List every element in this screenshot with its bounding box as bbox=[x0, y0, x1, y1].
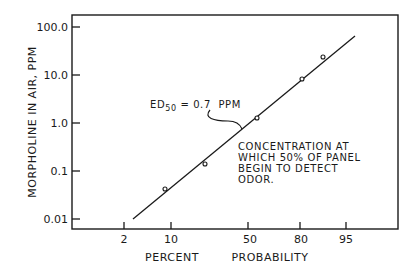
y-axis bbox=[72, 27, 80, 219]
note-line: CONCENTRATION AT bbox=[238, 141, 349, 152]
y-tick-label: 1.0 bbox=[51, 117, 69, 130]
y-tick-label: 0.01 bbox=[44, 213, 69, 226]
y-tick-label: 0.1 bbox=[51, 165, 69, 178]
note-line: ODOR. bbox=[238, 174, 274, 185]
ed50-leader-curve bbox=[208, 110, 242, 129]
ed50-annotation: ED50 = 0.7 PPM bbox=[150, 99, 242, 129]
x-axis bbox=[124, 222, 346, 229]
data-point bbox=[300, 77, 304, 81]
probability-plot: 100.0 10.0 1.0 0.1 0.01 MORPHOLINE IN AI… bbox=[0, 0, 420, 268]
y-axis-title: MORPHOLINE IN AIR, PPM bbox=[26, 46, 39, 198]
x-axis-title-part1: PERCENT bbox=[145, 251, 199, 264]
ed-label: ED bbox=[150, 99, 165, 110]
ed-value: = 0.7 PPM bbox=[177, 99, 241, 110]
y-tick-label: 10.0 bbox=[44, 69, 69, 82]
x-tick-label: 50 bbox=[243, 233, 257, 246]
x-tick-label: 10 bbox=[164, 233, 178, 246]
x-tick-label: 95 bbox=[339, 233, 353, 246]
fitted-line bbox=[133, 36, 355, 219]
data-point bbox=[163, 187, 167, 191]
y-tick-labels: 100.0 10.0 1.0 0.1 0.01 bbox=[37, 21, 69, 226]
x-tick-label: 80 bbox=[294, 233, 308, 246]
x-tick-label: 2 bbox=[121, 233, 128, 246]
x-axis-title-part2: PROBABILITY bbox=[231, 251, 308, 264]
x-tick-labels: 2 10 50 80 95 bbox=[121, 233, 354, 246]
ed-subscript: 50 bbox=[165, 104, 176, 113]
data-point bbox=[321, 55, 325, 59]
y-tick-label: 100.0 bbox=[37, 21, 69, 34]
concentration-note: CONCENTRATION AT WHICH 50% OF PANEL BEGI… bbox=[238, 141, 361, 185]
note-line: BEGIN TO DETECT bbox=[238, 163, 339, 174]
data-point bbox=[255, 116, 259, 120]
data-point bbox=[203, 162, 207, 166]
svg-text:ED50 = 0.7 PPM: ED50 = 0.7 PPM bbox=[150, 99, 241, 113]
note-line: WHICH 50% OF PANEL bbox=[238, 152, 361, 163]
